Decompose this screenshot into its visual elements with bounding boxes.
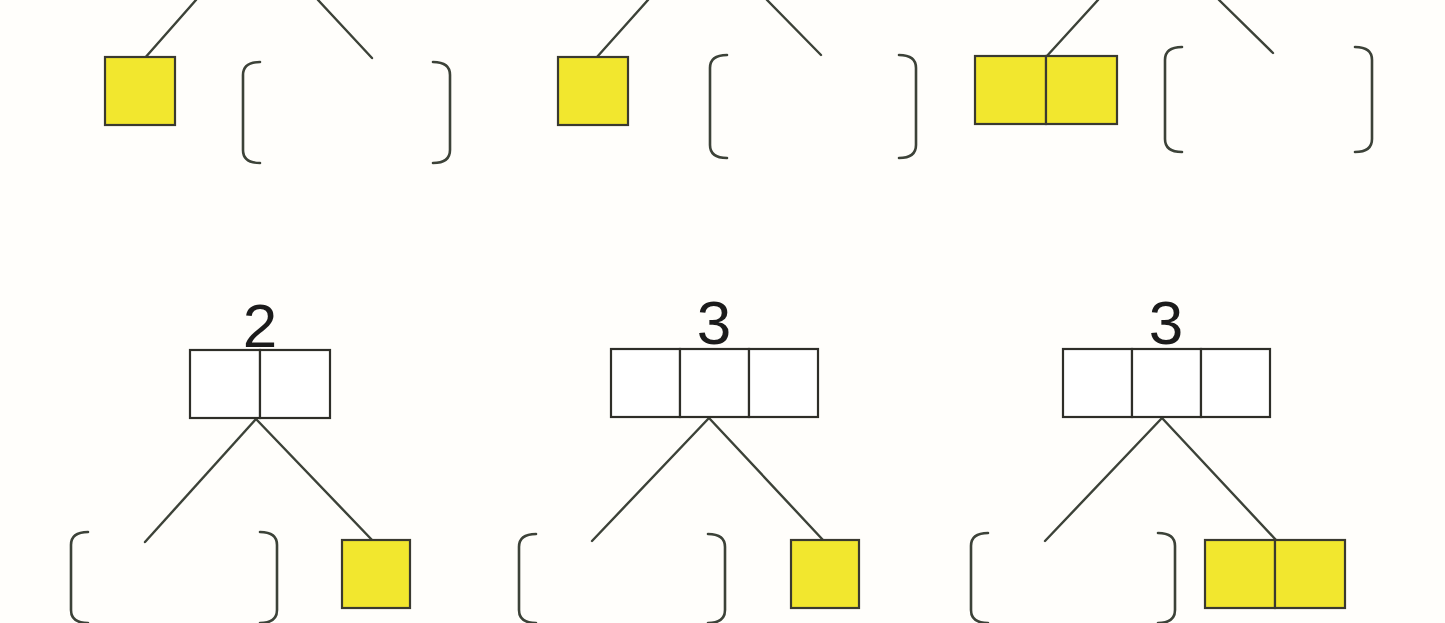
connector-left [592, 418, 709, 541]
connector-right [709, 418, 823, 540]
empty-bracket-pair[interactable] [1165, 47, 1372, 152]
yellow-tile-group[interactable] [975, 56, 1117, 124]
yellow-tile-group[interactable] [791, 540, 859, 608]
yellow-tile-cell[interactable] [1275, 540, 1345, 608]
yellow-tile-cell[interactable] [105, 57, 175, 125]
empty-tile-cell[interactable] [1132, 349, 1201, 417]
connector-left [1046, 0, 1098, 57]
empty-tile-cell[interactable] [611, 349, 680, 417]
right-bracket-icon [899, 55, 916, 158]
empty-tile-cell[interactable] [680, 349, 749, 417]
left-bracket-icon [710, 55, 727, 158]
yellow-tile-group[interactable] [105, 57, 175, 125]
group-count-label: 3 [697, 292, 731, 354]
yellow-tile-group[interactable] [558, 57, 628, 125]
left-bracket-icon [971, 533, 988, 623]
yellow-tile-cell[interactable] [1046, 56, 1117, 124]
empty-tile-group[interactable] [1063, 349, 1270, 417]
right-bracket-icon [708, 534, 725, 623]
empty-bracket-pair[interactable] [971, 533, 1175, 623]
empty-tile-cell[interactable] [190, 350, 260, 418]
yellow-tile-cell[interactable] [342, 540, 410, 608]
left-bracket-icon [71, 532, 88, 623]
right-bracket-icon [433, 62, 450, 163]
group-count-label: 2 [243, 295, 277, 357]
empty-tile-cell[interactable] [1201, 349, 1270, 417]
connector-right [1162, 418, 1276, 540]
yellow-tile-cell[interactable] [558, 57, 628, 125]
empty-bracket-pair[interactable] [71, 532, 277, 623]
empty-tile-cell[interactable] [749, 349, 818, 417]
connector-right [256, 419, 373, 541]
empty-tile-cell[interactable] [260, 350, 330, 418]
right-bracket-icon [1158, 533, 1175, 623]
yellow-tile-group[interactable] [1205, 540, 1345, 608]
yellow-tile-group[interactable] [342, 540, 410, 608]
diagram-canvas: 233 [0, 0, 1445, 623]
connector-right [1219, 0, 1273, 53]
yellow-tile-cell[interactable] [1205, 540, 1275, 608]
connector-right [318, 0, 372, 58]
connector-left [1045, 418, 1162, 541]
connector-right [767, 0, 821, 55]
left-bracket-icon [243, 62, 260, 163]
right-bracket-icon [260, 532, 277, 623]
empty-tile-cell[interactable] [1063, 349, 1132, 417]
group-count-label: 3 [1149, 292, 1183, 354]
empty-bracket-pair[interactable] [519, 534, 725, 623]
yellow-tile-cell[interactable] [791, 540, 859, 608]
empty-tile-group[interactable] [190, 350, 330, 418]
connector-left [597, 0, 648, 57]
left-bracket-icon [519, 534, 536, 623]
empty-bracket-pair[interactable] [243, 62, 450, 163]
yellow-tile-cell[interactable] [975, 56, 1046, 124]
left-bracket-icon [1165, 47, 1182, 152]
empty-tile-group[interactable] [611, 349, 818, 417]
connector-left [145, 419, 256, 542]
empty-bracket-pair[interactable] [710, 55, 916, 158]
right-bracket-icon [1355, 47, 1372, 152]
connector-left [144, 0, 196, 59]
